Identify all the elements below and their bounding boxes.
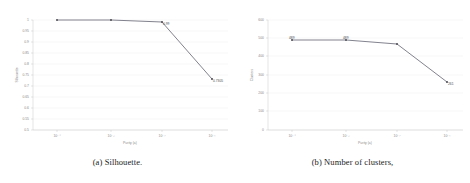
data-points-clusters (291, 39, 448, 83)
caption-silhouette: (a) Silhouette. (0, 157, 235, 167)
gridlines-clusters (268, 20, 463, 130)
data-point-label: 489 (289, 36, 295, 40)
y-tick-label: 1 (27, 18, 29, 22)
panel-silhouette: 1 0.95 0.9 0.85 0.8 0.75 0.7 0.65 0.6 0.… (0, 0, 235, 183)
y-tick-label: 500 (258, 36, 264, 40)
y-ticks-silhouette (31, 20, 33, 130)
x-tick-label: 10⁻¹ (444, 134, 452, 138)
y-tick-label: 0.75 (22, 73, 29, 77)
x-tick-label: 10⁻⁴ (53, 134, 61, 138)
y-tick-label: 0 (262, 128, 264, 132)
x-tick-label: 10⁻³ (343, 134, 351, 138)
y-tick-label: 300 (258, 73, 264, 77)
panel-clusters: 600 500 400 300 200 100 0 Clusters 10⁻⁴ … (235, 0, 470, 183)
figure-row: 1 0.95 0.9 0.85 0.8 0.75 0.7 0.65 0.6 0.… (0, 0, 470, 183)
data-point-label: 0.99 (163, 22, 170, 26)
data-line-silhouette (57, 20, 212, 79)
x-tick-label: 10⁻¹ (209, 134, 217, 138)
x-ticks-silhouette (57, 130, 212, 132)
x-tick-label: 10⁻⁴ (288, 134, 296, 138)
y-ticks-clusters (266, 20, 268, 130)
y-tick-label: 600 (258, 18, 264, 22)
gridlines-silhouette (33, 20, 228, 130)
y-tick-label: 0.5 (24, 128, 29, 132)
y-axis-title-clusters: Clusters (250, 68, 254, 81)
x-axis-title-clusters: Purity (a) (358, 141, 372, 145)
y-tick-label: 0.85 (22, 51, 29, 55)
data-point-label: 489 (343, 36, 349, 40)
silhouette-svg: 1 0.95 0.9 0.85 0.8 0.75 0.7 0.65 0.6 0.… (0, 4, 235, 148)
y-tick-label: 100 (258, 109, 264, 113)
x-tick-label: 10⁻² (159, 134, 167, 138)
y-tick-label: 200 (258, 91, 264, 95)
chart-clusters: 600 500 400 300 200 100 0 Clusters 10⁻⁴ … (235, 4, 470, 148)
data-point-label: 261 (448, 82, 454, 86)
y-tick-label: 0.95 (22, 29, 29, 33)
y-tick-label: 0.9 (24, 40, 29, 44)
caption-clusters: (b) Number of clusters, (235, 157, 470, 167)
y-tick-label: 0.8 (24, 62, 29, 66)
y-axis-title-silhouette: Silhouette (15, 67, 19, 82)
y-tick-label: 0.6 (24, 106, 29, 110)
y-tick-label: 0.55 (22, 117, 29, 121)
y-tick-label: 0.65 (22, 95, 29, 99)
chart-silhouette: 1 0.95 0.9 0.85 0.8 0.75 0.7 0.65 0.6 0.… (0, 4, 235, 148)
x-ticks-clusters (292, 130, 447, 132)
x-tick-label: 10⁻² (394, 134, 402, 138)
data-points-silhouette (56, 19, 213, 80)
y-tick-label: 400 (258, 54, 264, 58)
y-tick-label: 0.7 (24, 84, 29, 88)
data-line-clusters (292, 40, 447, 82)
x-axis-title-silhouette: Purity (a) (123, 141, 137, 145)
data-point-label: 0.7305 (213, 79, 223, 83)
x-tick-label: 10⁻³ (108, 134, 116, 138)
clusters-svg: 600 500 400 300 200 100 0 Clusters 10⁻⁴ … (235, 4, 470, 148)
